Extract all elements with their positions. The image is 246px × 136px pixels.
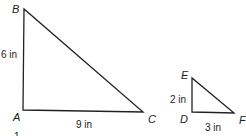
triangle-def: [192, 78, 234, 113]
side-label-de: 2 in: [170, 94, 186, 105]
vertex-label-c: C: [148, 113, 156, 125]
vertex-label-d: D: [180, 113, 188, 125]
side-label-df: 3 in: [205, 122, 221, 133]
vertex-label-e: E: [181, 69, 189, 81]
vertex-label-a: A: [12, 111, 20, 123]
vertex-label-b: B: [12, 3, 19, 15]
footnote-number: 1: [14, 131, 20, 136]
triangle-abc: [23, 9, 143, 112]
side-label-ab: 6 in: [1, 49, 17, 60]
side-label-ac: 9 in: [76, 119, 92, 130]
vertex-label-f: F: [239, 114, 246, 126]
triangle-diagram: B A C 6 in 9 in E D F 2 in 3 in 1: [0, 0, 246, 136]
